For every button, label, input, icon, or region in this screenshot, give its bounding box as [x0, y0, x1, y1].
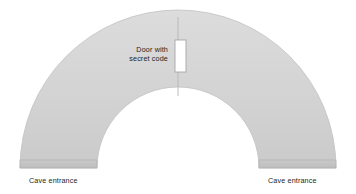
right-cave-entrance-label: Cave entrance — [268, 176, 317, 185]
cave-arch-graphic — [0, 0, 356, 194]
right-entrance-strip — [259, 160, 336, 168]
left-entrance-strip — [20, 160, 97, 168]
cave-diagram-canvas: Door with secret code Cave entrance Cave… — [0, 0, 356, 194]
left-cave-entrance-label: Cave entrance — [29, 176, 78, 185]
door-label: Door with secret code — [104, 45, 168, 64]
secret-door-shape[interactable] — [175, 40, 186, 72]
door-label-line-2: secret code — [104, 54, 168, 63]
door-label-line-1: Door with — [104, 45, 168, 54]
